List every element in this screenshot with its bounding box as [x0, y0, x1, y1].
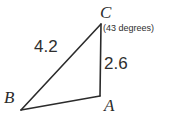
vertex-label-c: C	[100, 4, 111, 21]
triangle-figure: C B A 4.2 2.6 (43 degrees)	[0, 0, 176, 120]
side-length-label-bc: 4.2	[34, 38, 58, 55]
vertex-label-a: A	[104, 97, 114, 114]
edge-side-bc	[21, 24, 101, 110]
triangle-shape	[0, 0, 176, 120]
vertex-label-b: B	[4, 89, 14, 106]
side-length-label-ca: 2.6	[104, 55, 128, 72]
angle-annotation-c: (43 degrees)	[103, 24, 154, 33]
edge-side-ca	[100, 24, 101, 96]
